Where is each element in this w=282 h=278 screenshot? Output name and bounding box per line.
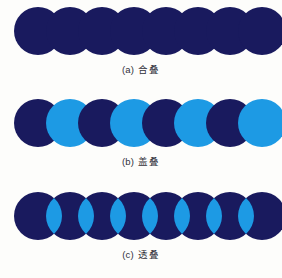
panel-cover-caption: (b)盖叠 (0, 156, 282, 168)
caption-tag: (c) (122, 249, 134, 260)
figure-root: (a)合叠 (b)盖叠 (c)透叠 (0, 0, 282, 278)
panel-cover: (b)盖叠 (0, 92, 282, 154)
caption-label: 盖叠 (138, 156, 160, 167)
panel-cover-canvas (0, 92, 282, 154)
caption-label: 透叠 (138, 249, 160, 260)
caption-label: 合叠 (138, 64, 160, 75)
caption-tag: (a) (122, 64, 134, 75)
panel-transparent: (c)透叠 (0, 185, 282, 247)
panel-union-caption: (a)合叠 (0, 64, 282, 76)
caption-tag: (b) (122, 156, 134, 167)
panel-union: (a)合叠 (0, 0, 282, 62)
panel-transparent-caption: (c)透叠 (0, 249, 282, 261)
panel-union-canvas (0, 0, 282, 62)
union-shape (14, 7, 282, 55)
panel-transparent-canvas (0, 185, 282, 247)
